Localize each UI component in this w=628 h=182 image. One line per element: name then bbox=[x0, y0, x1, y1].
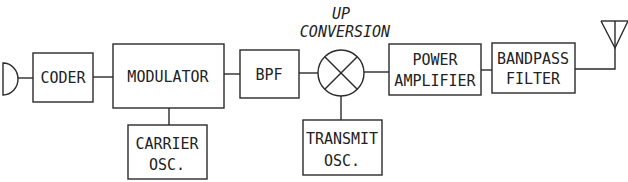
bandpass-filter-label-line2: FILTER bbox=[506, 70, 561, 88]
carrier-osc-label-line2: OSC. bbox=[149, 156, 185, 174]
bandpass-filter-label-line1: BANDPASS bbox=[497, 50, 569, 68]
power-amplifier-label-line2: AMPLIFIER bbox=[394, 72, 476, 90]
wire-bandpass-antenna bbox=[575, 48, 615, 69]
up-conversion-label-line2: CONVERSION bbox=[300, 23, 391, 41]
bpf-label: BPF bbox=[255, 66, 282, 84]
antenna-icon bbox=[601, 21, 628, 48]
transmitter-block-diagram: CODER MODULATOR CARRIER OSC. BPF UP CONV… bbox=[0, 0, 628, 182]
modulator-label: MODULATOR bbox=[127, 68, 209, 86]
transmit-osc-label-line2: OSC. bbox=[324, 152, 360, 170]
bandpass-filter-block: BANDPASS FILTER bbox=[492, 43, 575, 93]
coder-block: CODER bbox=[33, 53, 93, 102]
coder-label: CODER bbox=[40, 69, 86, 87]
carrier-osc-block: CARRIER OSC. bbox=[128, 125, 207, 179]
modulator-block: MODULATOR bbox=[113, 44, 224, 108]
bpf-block: BPF bbox=[240, 50, 299, 98]
power-amplifier-block: POWER AMPLIFIER bbox=[389, 44, 481, 95]
up-conversion-mixer: UP CONVERSION bbox=[300, 5, 391, 96]
transmit-osc-label-line1: TRANSMIT bbox=[306, 130, 378, 148]
up-conversion-label-line1: UP bbox=[332, 5, 350, 23]
carrier-osc-label-line1: CARRIER bbox=[135, 135, 199, 153]
power-amplifier-label-line1: POWER bbox=[412, 51, 458, 69]
microphone-icon bbox=[3, 63, 18, 95]
transmit-osc-block: TRANSMIT OSC. bbox=[303, 120, 382, 175]
